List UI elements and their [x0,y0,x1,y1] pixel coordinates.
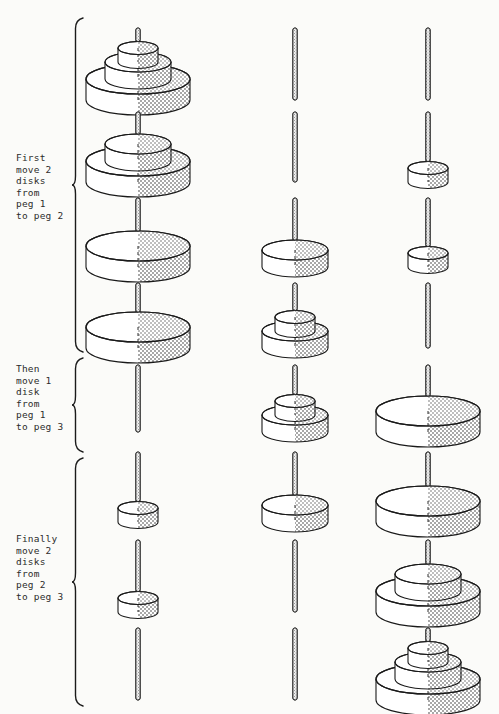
hanoi-row-5 [136,365,480,447]
hanoi-figure-page: First move 2 disks from peg 1 to peg 2 T… [0,0,499,714]
peg-rod-exposed [293,28,297,100]
hanoi-diagram-canvas [0,0,499,714]
peg-rod-exposed [136,540,140,592]
peg-rod-exposed [136,28,140,42]
peg-rod-exposed [293,198,297,240]
peg-rod-exposed [426,628,430,642]
hanoi-row-3 [86,198,448,282]
peg-rod-exposed [293,628,297,700]
group-brace [72,18,83,352]
peg-rod-exposed [293,283,297,311]
peg-rod-exposed [426,28,430,100]
group-brace [72,458,83,706]
hanoi-row-8 [136,628,480,714]
peg-rod-exposed [426,365,430,396]
disk-large [86,231,190,282]
peg-rod-exposed [136,112,140,134]
peg-rod-exposed [136,628,140,700]
peg-rod-exposed [426,452,430,486]
group-brace [72,358,83,452]
peg-rod-exposed [293,112,297,182]
hanoi-row-4 [86,283,430,363]
disk-large [376,396,480,447]
peg-rod-exposed [293,452,297,495]
caption-first: First move 2 disks from peg 1 to peg 2 [16,152,63,222]
peg-rod-exposed [426,198,430,247]
peg-rod-exposed [136,198,140,231]
peg-rod-exposed [293,365,297,395]
peg-rod-exposed [136,283,140,312]
peg-rod-exposed [426,112,430,162]
peg-rod-exposed [136,365,140,432]
peg-rod-exposed [293,540,297,612]
hanoi-row-7 [118,540,480,627]
caption-finally: Finally move 2 disks from peg 2 to peg 3 [16,533,63,603]
peg-rod-exposed [136,452,140,502]
caption-then: Then move 1 disk from peg 1 to peg 3 [16,363,63,433]
hanoi-row-6 [118,452,480,537]
peg-rod-exposed [426,283,430,348]
hanoi-row-1 [86,28,430,115]
peg-rod-exposed [426,540,430,564]
hanoi-row-2 [86,112,448,197]
disk-large [376,486,480,537]
brace-group-layer [72,18,83,706]
disk-large [86,312,190,363]
peg-rows-layer [86,28,480,714]
